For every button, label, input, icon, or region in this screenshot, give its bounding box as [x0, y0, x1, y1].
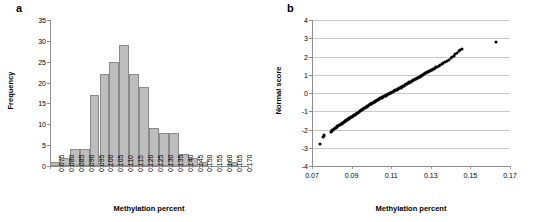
- panel-a-x-axis-title: Methylation percent: [50, 204, 248, 213]
- panel-b-gridline: [312, 93, 510, 94]
- panel-a-y-tick-label: 25: [38, 58, 46, 65]
- panel-b-y-axis-line: [312, 20, 313, 166]
- panel-b-x-tick-mark: [431, 166, 432, 169]
- panel-a-x-tick-mark: [238, 166, 239, 169]
- panel-b-x-axis-line: [312, 166, 510, 167]
- panel-a-y-tick-label: 10: [38, 121, 46, 128]
- panel-b-x-tick-mark: [510, 166, 511, 169]
- histogram-bar: [100, 74, 110, 166]
- panel-b-x-tick-label: 0.17: [503, 172, 517, 179]
- histogram-bar: [109, 62, 119, 166]
- panel-a-x-tick-mark: [159, 166, 160, 169]
- panel-b-x-tick-mark: [391, 166, 392, 169]
- panel-b-y-tick-label: -2: [288, 126, 308, 133]
- scatter-point: [323, 133, 326, 136]
- panel-b-y-tick-label: -3: [288, 144, 308, 151]
- panel-a-histogram: a Frequency Methylation percent 05101520…: [0, 0, 270, 222]
- panel-b-x-tick-label: 0.13: [424, 172, 438, 179]
- panel-b-y-tick-label: 1: [288, 71, 308, 78]
- panel-b-x-tick-mark: [470, 166, 471, 169]
- panel-a-x-tick-label: 0.160: [226, 154, 233, 172]
- panel-a-x-tick-label: 0.135: [177, 154, 184, 172]
- panel-a-x-tick-label: 0.080: [68, 154, 75, 172]
- panel-b-gridline: [312, 75, 510, 76]
- panel-b-plot-area: [312, 20, 510, 166]
- panel-a-x-tick-label: 0.130: [167, 154, 174, 172]
- panel-a-y-tick-label: 0: [42, 163, 46, 170]
- panel-a-y-tick-label: 30: [38, 37, 46, 44]
- panel-a-x-tick-mark: [228, 166, 229, 169]
- panel-a-x-tick-mark: [208, 166, 209, 169]
- panel-b-qq-plot: b Normal score Methylation percent -4-3-…: [270, 0, 537, 222]
- panel-a-x-tick-mark: [139, 166, 140, 169]
- panel-a-x-tick-label: 0.095: [98, 154, 105, 172]
- panel-a-x-tick-mark: [179, 166, 180, 169]
- panel-a-x-tick-label: 0.120: [147, 154, 154, 172]
- panel-a-x-tick-mark: [169, 166, 170, 169]
- panel-b-y-tick-label: 3: [288, 35, 308, 42]
- panel-b-x-tick-label: 0.11: [385, 172, 398, 179]
- panel-b-y-axis-title: Normal score: [274, 55, 283, 127]
- panel-b-x-axis-title: Methylation percent: [312, 204, 510, 213]
- panel-b-x-tick-mark: [312, 166, 313, 169]
- scatter-point: [319, 143, 322, 146]
- histogram-bar: [119, 45, 129, 166]
- panel-a-x-tick-label: 0.105: [117, 154, 124, 172]
- panel-a-y-axis-title: Frequency: [6, 59, 15, 123]
- panel-a-x-tick-label: 0.100: [107, 154, 114, 172]
- panel-a-x-tick-mark: [218, 166, 219, 169]
- figure-container: a Frequency Methylation percent 05101520…: [0, 0, 537, 222]
- scatter-point: [495, 41, 498, 44]
- panel-b-x-tick-label: 0.07: [305, 172, 319, 179]
- panel-a-x-tick-mark: [109, 166, 110, 169]
- scatter-point: [460, 47, 463, 50]
- panel-a-x-tick-label: 0.140: [187, 154, 194, 172]
- panel-a-y-axis-line: [50, 20, 51, 166]
- panel-a-label: a: [16, 2, 22, 14]
- panel-b-y-tick-label: 2: [288, 53, 308, 60]
- panel-b-y-tick-label: 4: [288, 17, 308, 24]
- panel-a-x-tick-label: 0.075: [58, 154, 65, 172]
- panel-a-x-tick-label: 0.155: [216, 154, 223, 172]
- panel-a-x-tick-label: 0.165: [236, 154, 243, 172]
- panel-a-y-tick-label: 20: [38, 79, 46, 86]
- panel-a-x-tick-mark: [60, 166, 61, 169]
- panel-a-x-tick-mark: [90, 166, 91, 169]
- panel-a-x-tick-mark: [100, 166, 101, 169]
- panel-b-y-tick-label: 0: [288, 90, 308, 97]
- panel-b-x-tick-mark: [352, 166, 353, 169]
- panel-b-gridline: [312, 148, 510, 149]
- panel-a-y-tick-label: 15: [38, 100, 46, 107]
- panel-a-x-tick-label: 0.085: [78, 154, 85, 172]
- panel-a-x-tick-label: 0.115: [137, 155, 144, 172]
- panel-a-x-tick-label: 0.170: [246, 154, 253, 172]
- panel-b-y-tick-label: -1: [288, 108, 308, 115]
- panel-a-x-tick-label: 0.145: [197, 154, 204, 172]
- panel-a-x-tick-mark: [80, 166, 81, 169]
- panel-b-label: b: [287, 2, 294, 14]
- panel-a-x-tick-mark: [129, 166, 130, 169]
- panel-b-gridline: [312, 111, 510, 112]
- panel-a-x-tick-label: 0.110: [127, 155, 134, 172]
- panel-a-x-tick-mark: [50, 166, 51, 169]
- panel-a-x-tick-mark: [248, 166, 249, 169]
- panel-a-x-tick-mark: [199, 166, 200, 169]
- panel-a-x-tick-label: 0.150: [206, 154, 213, 172]
- panel-a-x-tick-label: 0.125: [157, 154, 164, 172]
- panel-b-y-tick-label: -4: [288, 163, 308, 170]
- panel-a-x-tick-mark: [119, 166, 120, 169]
- panel-a-y-tick-label: 35: [38, 17, 46, 24]
- panel-b-gridline: [312, 38, 510, 39]
- panel-b-x-tick-label: 0.15: [464, 172, 478, 179]
- panel-a-x-tick-mark: [70, 166, 71, 169]
- panel-b-gridline: [312, 57, 510, 58]
- panel-b-x-tick-label: 0.09: [345, 172, 359, 179]
- panel-b-gridline: [312, 20, 510, 21]
- panel-a-plot-area: [50, 20, 248, 166]
- panel-a-y-tick-label: 5: [42, 142, 46, 149]
- panel-a-x-tick-mark: [189, 166, 190, 169]
- panel-a-x-tick-mark: [149, 166, 150, 169]
- panel-a-x-tick-label: 0.090: [88, 154, 95, 172]
- histogram-bar: [129, 74, 139, 166]
- panel-b-gridline: [312, 130, 510, 131]
